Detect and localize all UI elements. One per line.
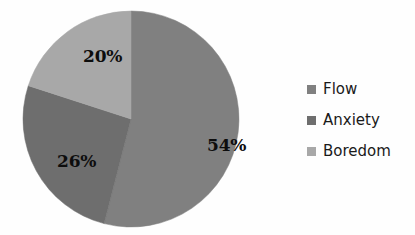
legend-item-flow[interactable]: Flow: [307, 74, 412, 105]
chart-legend: Flow Anxiety Boredom: [307, 74, 412, 167]
pie-slice-group: [23, 11, 239, 227]
legend-swatch-icon: [307, 147, 316, 156]
slice-label-flow: 54%: [207, 137, 246, 154]
legend-swatch-icon: [307, 116, 316, 125]
legend-item-anxiety[interactable]: Anxiety: [307, 105, 412, 136]
legend-swatch-icon: [307, 85, 316, 94]
legend-label-boredom: Boredom: [323, 144, 391, 159]
slice-label-boredom: 20%: [83, 48, 122, 65]
pie-chart: 54% 26% 20% Flow Anxiety Boredom: [0, 0, 415, 235]
pie-svg: [22, 10, 240, 228]
slice-label-anxiety: 26%: [57, 153, 96, 170]
pie-plot-area: 54% 26% 20%: [22, 10, 240, 228]
legend-item-boredom[interactable]: Boredom: [307, 136, 412, 167]
legend-label-flow: Flow: [323, 82, 357, 97]
legend-label-anxiety: Anxiety: [323, 113, 380, 128]
